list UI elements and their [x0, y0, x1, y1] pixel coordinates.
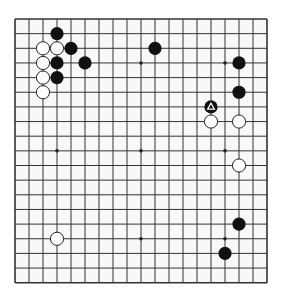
white-stone[interactable] — [232, 115, 245, 128]
black-stone[interactable] — [50, 56, 63, 69]
black-stone[interactable] — [148, 42, 161, 55]
black-stone[interactable] — [50, 27, 63, 40]
black-stone[interactable] — [78, 56, 91, 69]
white-stone[interactable] — [36, 86, 49, 99]
white-stone[interactable] — [50, 42, 63, 55]
black-stone[interactable] — [232, 218, 245, 231]
star-point — [223, 237, 227, 241]
white-stone[interactable] — [36, 71, 49, 84]
star-point — [223, 149, 227, 153]
white-stone[interactable] — [204, 115, 217, 128]
star-point — [139, 61, 143, 65]
black-stone[interactable] — [232, 56, 245, 69]
black-stone[interactable] — [50, 71, 63, 84]
star-point — [223, 61, 227, 65]
white-stone[interactable] — [36, 56, 49, 69]
white-stone[interactable] — [36, 42, 49, 55]
star-point — [139, 237, 143, 241]
black-stone[interactable] — [64, 42, 77, 55]
black-stone[interactable] — [232, 86, 245, 99]
go-board — [0, 0, 281, 297]
white-stone[interactable] — [232, 159, 245, 172]
star-point — [55, 149, 59, 153]
star-point — [139, 149, 143, 153]
white-stone[interactable] — [50, 232, 63, 245]
black-stone[interactable] — [218, 247, 231, 260]
